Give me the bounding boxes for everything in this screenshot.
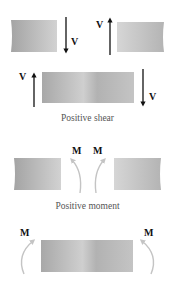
shear-label-top-left: V [71, 36, 78, 47]
moment-label-top-right: M [93, 145, 102, 156]
beam-segment [41, 240, 133, 272]
shear-moment-sign-convention-diagram [0, 0, 175, 300]
beam-segment [114, 158, 161, 190]
moment-arrow-curved-icon [72, 160, 81, 193]
shear-top-right-segment [110, 20, 164, 55]
shear-label-mid-left: V [19, 71, 26, 82]
shear-full-segment [34, 69, 143, 107]
beam-segment [117, 22, 164, 52]
moment-full-segment [21, 240, 153, 274]
shear-label-mid-right: V [149, 91, 156, 102]
moment-arrow-curved-icon [21, 241, 33, 274]
moment-label-bottom-right: M [144, 227, 153, 238]
moment-label-bottom-left: M [20, 227, 29, 238]
moment-arrow-curved-icon [95, 160, 104, 193]
positive-shear-caption: Positive shear [0, 113, 175, 123]
beam-segment [14, 158, 61, 190]
shear-label-top-right: V [96, 19, 103, 30]
moment-top-pair [14, 158, 161, 193]
shear-top-left-segment [11, 17, 66, 52]
positive-moment-caption: Positive moment [0, 201, 175, 211]
beam-segment [11, 20, 57, 52]
beam-segment [42, 72, 134, 103]
moment-arrow-curved-icon [142, 241, 154, 274]
moment-label-top-left: M [72, 145, 81, 156]
